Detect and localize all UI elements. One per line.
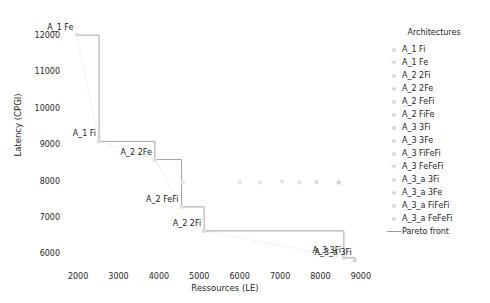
legend-item-label: A_2 2Fi [402, 71, 430, 80]
legend: Architectures A_1 FiA_1 FeA_2 2FiA_2 2Fe… [386, 28, 490, 238]
y-tick-label: 8000 [20, 176, 60, 185]
legend-item-pareto-front[interactable]: Pareto front [386, 225, 490, 238]
legend-item-a-3-3fi[interactable]: A_3 3Fi [386, 121, 490, 134]
legend-marker-icon [386, 231, 402, 232]
data-point [202, 229, 206, 233]
y-tick-label: 6000 [20, 249, 60, 258]
scatter-points-group [74, 33, 357, 262]
pareto-guide-path [76, 35, 354, 260]
legend-item-a-1-fe[interactable]: A_1 Fe [386, 56, 490, 69]
point-annotation: A_2 2Fe [121, 147, 152, 156]
legend-marker-icon [386, 100, 402, 104]
legend-marker-icon [386, 74, 402, 78]
y-tick-label: 12000 [20, 31, 60, 40]
legend-item-label: A_3_a 3Fi [402, 175, 439, 184]
pareto-front-path [76, 35, 354, 260]
data-point [237, 180, 241, 184]
x-tick-label: 9000 [351, 272, 371, 281]
data-point [353, 258, 357, 262]
legend-item-a-3-3fe[interactable]: A_3 3Fe [386, 134, 490, 147]
x-tick-label: 6000 [229, 272, 249, 281]
x-tick-label: 7000 [270, 272, 290, 281]
x-tick-label: 2000 [68, 272, 88, 281]
data-point [179, 205, 183, 209]
data-point [336, 180, 340, 184]
x-tick-label: 5000 [189, 272, 209, 281]
legend-item-label: A_1 Fi [402, 45, 425, 54]
legend-item-label: A_3_a FiFeFi [402, 201, 450, 210]
legend-item-a-3-a-3fe[interactable]: A_3_a 3Fe [386, 186, 490, 199]
legend-item-label: A_3 3Fi [402, 123, 430, 132]
legend-item-a-3-fifefi[interactable]: A_3 FiFeFi [386, 147, 490, 160]
x-tick-label: 3000 [108, 272, 128, 281]
legend-item-label: A_2 FiFe [402, 110, 434, 119]
point-annotation: A_1 Fe [47, 23, 73, 32]
legend-item-a-3-a-fefefi[interactable]: A_3_a FeFeFi [386, 212, 490, 225]
legend-item-label: A_2 2Fe [402, 84, 433, 93]
x-tick-label: 8000 [310, 272, 330, 281]
legend-item-label: A_1 Fe [402, 58, 428, 67]
pareto-chart-figure: Latency (CPGI) Ressources (LE) 600070008… [0, 0, 490, 303]
legend-item-a-2-fife[interactable]: A_2 FiFe [386, 108, 490, 121]
legend-marker-icon [386, 87, 402, 91]
data-point [74, 33, 79, 37]
data-point [297, 180, 301, 184]
legend-item-label: A_3_a FeFeFi [402, 214, 452, 223]
legend-item-label: A_2 FeFi [402, 97, 434, 106]
legend-marker-icon [386, 139, 402, 143]
legend-item-a-3-a-3fi[interactable]: A_3_a 3Fi [386, 173, 490, 186]
legend-item-a-2-2fe[interactable]: A_2 2Fe [386, 82, 490, 95]
point-annotation: A_2 FeFi [146, 194, 178, 203]
legend-item-label: A_3 FiFeFi [402, 149, 441, 158]
legend-item-label: A_3 FeFeFi [402, 162, 444, 171]
point-annotation: A_2 2Fi [173, 218, 201, 227]
legend-rows: A_1 FiA_1 FeA_2 2FiA_2 2FeA_2 FeFiA_2 Fi… [386, 43, 490, 238]
y-tick-label: 7000 [20, 213, 60, 222]
legend-item-a-3-a-fifefi[interactable]: A_3_a FiFeFi [386, 199, 490, 212]
y-tick-label: 10000 [20, 103, 60, 112]
legend-marker-icon [386, 48, 402, 52]
pareto-front-line [76, 35, 354, 260]
legend-marker-icon [386, 113, 402, 117]
legend-marker-icon [386, 126, 402, 130]
legend-item-a-2-fefi[interactable]: A_2 FeFi [386, 95, 490, 108]
legend-marker-icon [386, 152, 402, 156]
data-point [258, 180, 262, 184]
x-axis-label: Ressources (LE) [60, 283, 390, 293]
legend-item-label: Pareto front [402, 227, 449, 236]
legend-item-label: A_3_a 3Fe [402, 188, 442, 197]
data-point [153, 157, 157, 161]
legend-title: Architectures [386, 28, 482, 37]
legend-marker-icon [386, 204, 402, 208]
point-annotation: A_1 Fi [73, 129, 96, 138]
data-point [314, 180, 318, 184]
y-tick-label: 11000 [20, 67, 60, 76]
legend-marker-icon [386, 61, 402, 65]
data-point [280, 180, 285, 184]
legend-item-label: A_3 3Fe [402, 136, 433, 145]
x-tick-label: 4000 [149, 272, 169, 281]
point-annotation: A_3_a 3Fi [314, 248, 351, 257]
legend-item-a-1-fi[interactable]: A_1 Fi [386, 43, 490, 56]
y-axis-label: Latency (CPGI) [13, 79, 23, 171]
legend-item-a-2-2fi[interactable]: A_2 2Fi [386, 69, 490, 82]
data-point [181, 180, 185, 184]
legend-marker-icon [386, 178, 402, 182]
legend-marker-icon [386, 165, 402, 169]
y-tick-label: 9000 [20, 140, 60, 149]
legend-marker-icon [386, 191, 402, 195]
legend-marker-icon [386, 217, 402, 221]
legend-item-a-3-fefefi[interactable]: A_3 FeFeFi [386, 160, 490, 173]
data-point [97, 139, 101, 143]
